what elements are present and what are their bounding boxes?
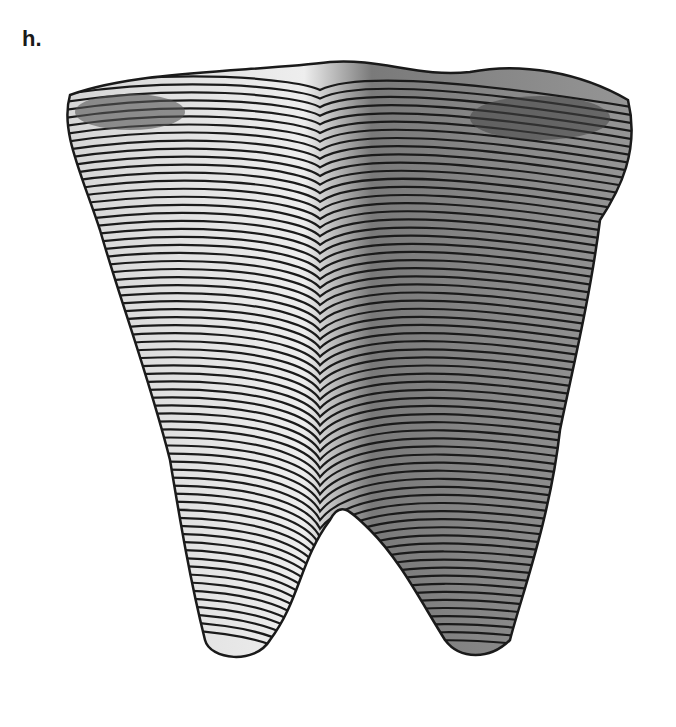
shell-illustration bbox=[0, 0, 676, 727]
